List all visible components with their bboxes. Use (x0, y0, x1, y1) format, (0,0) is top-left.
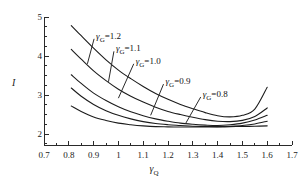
y-tick-label: 3 (30, 91, 42, 100)
annotation-leader-line (118, 64, 133, 98)
series-annotation-label: γG=0.8 (203, 90, 228, 102)
x-tick-label: 1 (116, 151, 121, 160)
series-annotation-label: γG=0.9 (166, 77, 191, 89)
annotation-leader-line (151, 84, 164, 115)
y-axis-title: I (12, 78, 15, 88)
y-tick-label: 2 (30, 130, 42, 139)
x-tick-label: 1.5 (237, 151, 248, 160)
y-tick-label: 4 (30, 52, 42, 61)
x-tick-label: 1.7 (286, 151, 297, 160)
series-annotation-label: γG=1.1 (116, 44, 141, 56)
x-tick-label: 1.4 (212, 151, 223, 160)
x-tick-label: 1.1 (138, 151, 149, 160)
y-tick-label: 5 (30, 13, 42, 22)
x-tick-label: 1.3 (187, 151, 198, 160)
x-tick-label: 1.6 (262, 151, 273, 160)
x-tick-label: 0.9 (88, 151, 99, 160)
series-annotation-label: γG=1.2 (96, 32, 121, 44)
x-tick-label: 0.8 (63, 151, 74, 160)
x-tick-label: 0.7 (38, 151, 49, 160)
x-tick-label: 1.2 (162, 151, 173, 160)
chart-figure: 0.70.80.911.11.21.31.41.51.61.7 2345 γG=… (0, 0, 308, 188)
x-axis-title: γQ (149, 164, 158, 177)
series-annotation-label: γG=1.0 (136, 57, 161, 69)
